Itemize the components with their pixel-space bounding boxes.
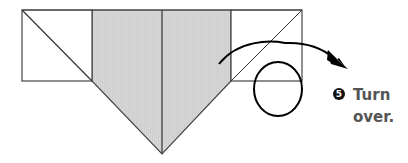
arrowhead-fill-icon (327, 51, 348, 69)
instruction-text: Turn over. (353, 84, 394, 128)
instruction-step: 5 Turn over. (333, 84, 394, 128)
step-number-badge: 5 (333, 88, 345, 100)
diagram-canvas: 5 Turn over. (0, 0, 408, 163)
origami-diagram (0, 0, 408, 163)
